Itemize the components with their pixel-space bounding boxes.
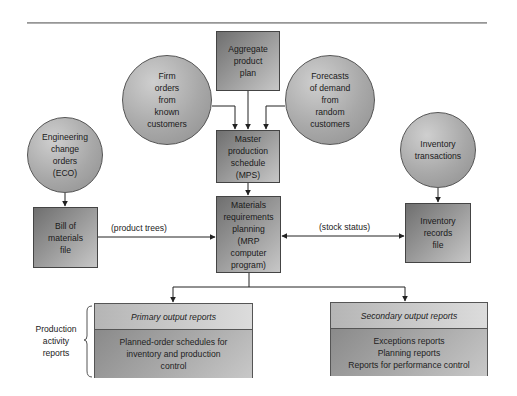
inventory-records-file-box: Inventory records file bbox=[405, 203, 471, 263]
product-trees-label: (product trees) bbox=[111, 223, 167, 233]
bill-of-materials-box: Bill of materials file bbox=[33, 207, 98, 268]
primary-output-reports-box: Primary output reports Planned-order sch… bbox=[94, 303, 253, 378]
master-production-schedule-box: Master production schedule (MPS) bbox=[216, 130, 280, 183]
aggregate-product-plan-box: Aggregate product plan bbox=[216, 31, 280, 91]
forecasts-circle: Forecasts of demand from random customer… bbox=[285, 55, 375, 145]
primary-output-reports-header: Primary output reports bbox=[95, 304, 252, 330]
primary-output-reports-body: Planned-order schedules for inventory an… bbox=[95, 330, 252, 378]
engineering-change-orders-circle: Engineering change orders (ECO) bbox=[27, 117, 103, 193]
secondary-output-reports-body: Exceptions reports Planning reports Repo… bbox=[331, 329, 487, 376]
inventory-transactions-circle: Inventory transactions bbox=[400, 112, 476, 188]
mrp-program-box: Materials requirements planning (MRP com… bbox=[216, 196, 281, 273]
stock-status-label: (stock status) bbox=[319, 222, 370, 232]
secondary-output-reports-box: Secondary output reports Exceptions repo… bbox=[330, 302, 488, 376]
secondary-output-reports-header: Secondary output reports bbox=[331, 303, 487, 329]
production-activity-reports-label: Production activity reports bbox=[28, 323, 84, 359]
firm-orders-circle: Firm orders from known customers bbox=[122, 55, 212, 145]
